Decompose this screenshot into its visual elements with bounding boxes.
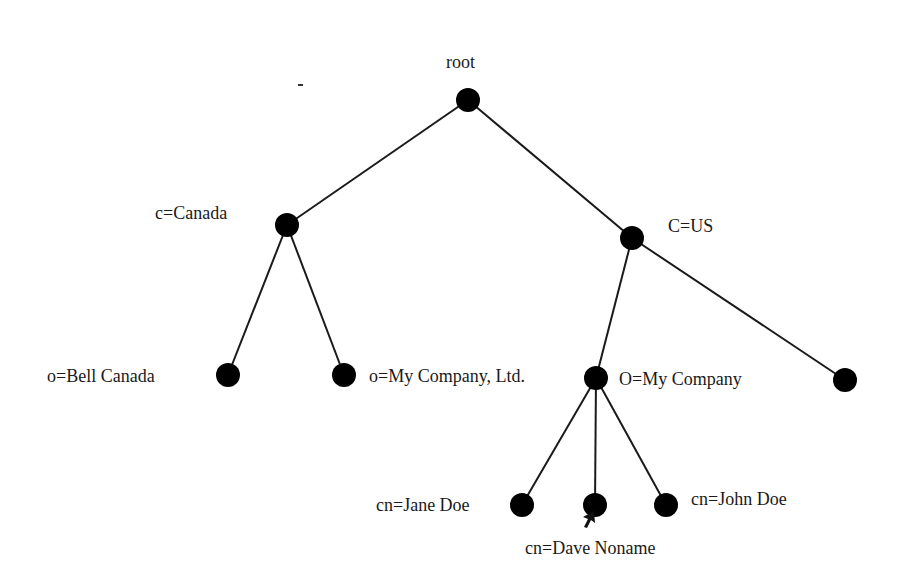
node-o-my-company — [584, 366, 608, 390]
label-c-us: C=US — [668, 216, 713, 236]
node-cn-john-doe — [654, 493, 678, 517]
label-c-canada: c=Canada — [155, 203, 227, 223]
stray-mark — [298, 84, 303, 86]
edge-c-canada-to-o-bell-canada — [228, 225, 287, 375]
node-root — [456, 88, 480, 112]
node-o-bell-canada — [216, 363, 240, 387]
label-root: root — [446, 52, 475, 72]
edge-o-my-company-to-cn-jane-doe — [522, 378, 596, 505]
edge-c-us-to-o-my-company — [596, 238, 632, 378]
tree-nodes — [216, 88, 857, 517]
edge-o-my-company-to-cn-john-doe — [596, 378, 666, 505]
edge-o-my-company-to-cn-dave-noname — [595, 378, 596, 505]
label-o-my-company: O=My Company — [619, 369, 742, 389]
edge-root-to-c-canada — [287, 100, 468, 225]
edge-root-to-c-us — [468, 100, 632, 238]
node-c-us — [620, 226, 644, 250]
node-us-other — [833, 368, 857, 392]
label-o-bell-canada: o=Bell Canada — [47, 366, 155, 386]
label-cn-jane-doe: cn=Jane Doe — [376, 495, 470, 515]
tree-edges — [228, 100, 845, 505]
node-cn-dave-noname — [583, 493, 607, 517]
edge-c-us-to-us-other — [632, 238, 845, 380]
label-cn-john-doe: cn=John Doe — [691, 489, 787, 509]
node-c-canada — [275, 213, 299, 237]
edge-c-canada-to-o-my-company-ltd — [287, 225, 344, 375]
label-o-my-company-ltd: o=My Company, Ltd. — [369, 366, 525, 386]
node-cn-jane-doe — [510, 493, 534, 517]
node-o-my-company-ltd — [332, 363, 356, 387]
label-cn-dave-noname: cn=Dave Noname — [525, 538, 656, 558]
